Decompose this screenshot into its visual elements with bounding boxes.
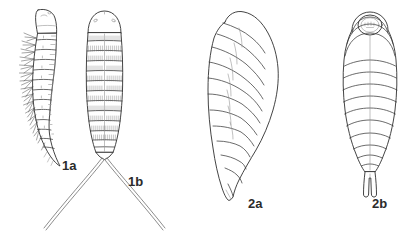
plate-canvas: 1a — [0, 0, 415, 239]
figure-1b-head — [88, 11, 121, 33]
figure-1b: 1b — [44, 11, 165, 230]
figure-1a: 1a — [20, 9, 78, 173]
figure-1a-head — [36, 9, 57, 33]
figure-1b-filament-right-edge — [105, 160, 163, 230]
figure-1a-label: 1a — [62, 158, 77, 173]
figure-1b-label: 1b — [128, 174, 143, 189]
figure-2a: 2a — [208, 11, 278, 211]
figure-1b-filament-right — [107, 158, 165, 228]
figure-2b: 2b — [343, 12, 397, 211]
figure-2a-body — [208, 11, 278, 200]
illustration-plate: 1a — [0, 0, 415, 239]
figure-2b-label: 2b — [372, 196, 387, 211]
figure-2a-label: 2a — [248, 196, 263, 211]
figure-1b-anal-segment — [96, 153, 113, 160]
